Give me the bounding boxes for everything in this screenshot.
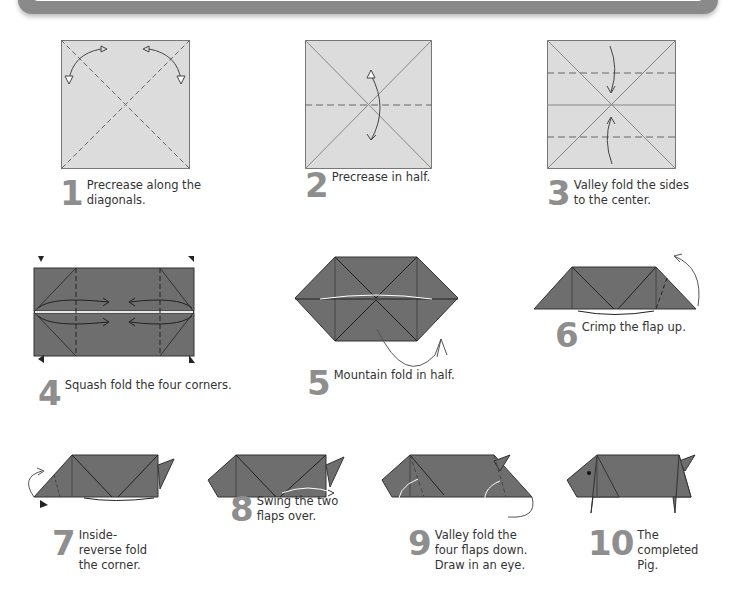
step-8: 8 Swing the two flaps over.: [230, 494, 338, 524]
step-6: 6 Crimp the flap up.: [555, 320, 686, 350]
step-7-diagram: [20, 453, 180, 503]
step-6-diagram: [534, 256, 704, 316]
step-4: 4 Squash fold the four corners.: [38, 378, 232, 408]
step-number: 2: [305, 170, 328, 200]
step-caption: Precrease in half.: [332, 170, 430, 185]
pig-base-icon: [20, 453, 180, 503]
step-caption: Crimp the flap up.: [582, 320, 686, 335]
step-caption: Mountain fold in half.: [334, 368, 455, 383]
rectangle-paper-icon: [32, 256, 200, 356]
step-caption: Precrease along the diagonals.: [87, 178, 201, 208]
step-caption: Valley fold the four flaps down. Draw in…: [435, 528, 528, 573]
header-banner-inner: [32, 0, 704, 1]
step-caption: Swing the two flaps over.: [257, 494, 339, 524]
step-9: 9 Valley fold the four flaps down. Draw …: [408, 528, 527, 573]
square-paper-icon: [61, 40, 191, 170]
hexagon-paper-icon: [295, 257, 465, 377]
pig-eye-icon: [587, 471, 591, 475]
step-number: 8: [230, 494, 253, 524]
step-5-diagram: [295, 257, 465, 377]
step-5: 5 Mountain fold in half.: [307, 368, 455, 398]
step-caption: The completed Pig.: [637, 528, 698, 573]
step-1-diagram: [61, 40, 191, 170]
step-7: 7 Inside- reverse fold the corner.: [52, 528, 147, 573]
step-2: 2 Precrease in half.: [305, 170, 430, 200]
step-number: 3: [547, 178, 570, 208]
square-paper-icon: [305, 40, 433, 170]
step-4-diagram: [32, 256, 200, 356]
step-number: 1: [60, 178, 83, 208]
completed-pig-icon: [567, 453, 707, 518]
header-banner: [18, 0, 718, 14]
corner-marker-bottom-left: [38, 355, 46, 363]
step-number: 6: [555, 320, 578, 350]
step-3: 3 Valley fold the sides to the center.: [547, 178, 689, 208]
trapezoid-paper-icon: [534, 256, 704, 316]
step-caption: Valley fold the sides to the center.: [574, 178, 689, 208]
corner-marker-bottom-right: [189, 355, 197, 363]
step-9-diagram: [382, 453, 542, 523]
step-caption: Inside- reverse fold the corner.: [79, 528, 147, 573]
square-paper-icon: [547, 40, 677, 170]
step-1: 1 Precrease along the diagonals.: [60, 178, 201, 208]
step-10: 10 The completed Pig.: [588, 528, 698, 573]
step-3-diagram: [547, 40, 677, 170]
step-2-diagram: [305, 40, 433, 170]
step-number: 9: [408, 528, 431, 558]
step-10-diagram: [567, 453, 707, 518]
step-caption: Squash fold the four corners.: [65, 378, 232, 393]
step-number: 5: [307, 368, 330, 398]
step-number: 10: [588, 528, 633, 558]
step-number: 7: [52, 528, 75, 558]
step-number: 4: [38, 378, 61, 408]
pig-base-icon: [382, 453, 542, 523]
